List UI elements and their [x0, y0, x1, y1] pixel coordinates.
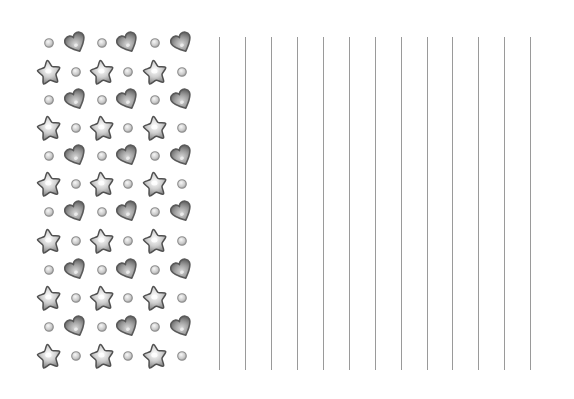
ruled-lines	[0, 0, 574, 399]
ruled-line	[219, 37, 220, 370]
ruled-line	[504, 37, 505, 370]
ruled-line	[478, 37, 479, 370]
stationery-page	[0, 0, 574, 399]
ruled-line	[297, 37, 298, 370]
ruled-line	[245, 37, 246, 370]
ruled-line	[349, 37, 350, 370]
ruled-line	[271, 37, 272, 370]
ruled-line	[427, 37, 428, 370]
ruled-line	[401, 37, 402, 370]
ruled-line	[530, 37, 531, 370]
ruled-line	[452, 37, 453, 370]
ruled-line	[323, 37, 324, 370]
ruled-line	[375, 37, 376, 370]
